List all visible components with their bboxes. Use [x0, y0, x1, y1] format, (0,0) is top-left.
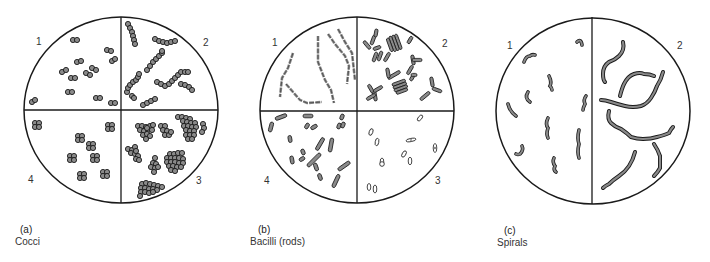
bacilli-quadrant-2-label: 2 [442, 38, 448, 49]
branching-rods [363, 29, 443, 101]
spirals-region-2-label: 2 [677, 40, 683, 51]
cocci-quadrant-3-label: 3 [196, 175, 202, 186]
cocci-quadrant-1-label: 1 [36, 36, 42, 47]
spirals-panel [496, 17, 690, 204]
tetrad-cocci [32, 120, 114, 180]
panel-b-caption: Bacilli (rods) [250, 235, 305, 248]
bacilli-quadrant-4-label: 4 [264, 175, 270, 186]
bacilli-panel [260, 17, 454, 203]
panel-a-caption: Cocci [15, 235, 40, 248]
single-rods [268, 113, 351, 188]
cocci-quadrant-2-label: 2 [203, 37, 209, 48]
cocci-panel [24, 17, 218, 203]
spirochetes [601, 42, 673, 188]
streptococci-chains [124, 21, 194, 107]
spore-forming-rods [367, 114, 437, 193]
panel-c-caption: Spirals [497, 236, 528, 249]
bacilli-quadrant-3-label: 3 [435, 175, 441, 186]
vibrio-forms [508, 41, 586, 172]
bacilli-quadrant-1-label: 1 [272, 37, 278, 48]
spirals-field-circle [496, 18, 690, 204]
diplococci-cluster [29, 37, 117, 105]
staphylococci-clusters [125, 114, 206, 198]
cocci-quadrant-4-label: 4 [28, 174, 34, 185]
microbe-morphology-diagram [0, 0, 710, 262]
spirals-region-1-label: 1 [507, 40, 513, 51]
